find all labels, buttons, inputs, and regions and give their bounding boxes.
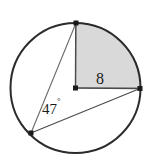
degree-symbol-icon: °	[57, 96, 61, 106]
radius-length-label: 8	[96, 70, 104, 87]
circle-diagram-canvas: 8 47°	[0, 0, 151, 165]
radius-horizontal	[76, 88, 141, 89]
vertex-point-top	[74, 21, 79, 26]
vertex-point-bottom-left	[29, 131, 34, 136]
geometry-figure: 8 47°	[0, 0, 151, 165]
vertex-point-center	[73, 86, 78, 91]
inscribed-angle-value: 47	[42, 101, 58, 117]
vertex-point-right	[138, 86, 143, 91]
